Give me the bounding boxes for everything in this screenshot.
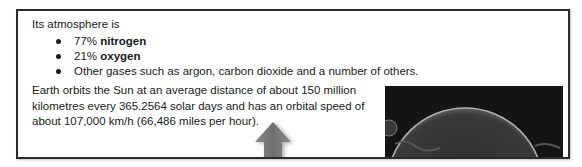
bullet-icon — [56, 39, 61, 44]
list-item-prefix: 77% — [74, 35, 100, 47]
paragraph-line: kilometres every 365.2564 solar days and… — [32, 99, 392, 115]
document-frame: Its atmosphere is 77% nitrogen 21% oxyge… — [16, 9, 570, 159]
list-item-bold: oxygen — [100, 50, 140, 62]
list-item-bold: nitrogen — [100, 35, 146, 47]
list-item: 21% oxygen — [54, 49, 419, 64]
bullet-icon — [56, 54, 61, 59]
paragraph-line: Earth orbits the Sun at an average dista… — [32, 83, 392, 99]
list-item: Other gases such as argon, carbon dioxid… — [54, 64, 419, 79]
atmosphere-list: 77% nitrogen 21% oxygen Other gases such… — [54, 34, 419, 79]
orbit-paragraph: Earth orbits the Sun at an average dista… — [32, 83, 392, 130]
list-item-prefix: Other gases such as argon, carbon dioxid… — [74, 65, 419, 77]
atmosphere-intro: Its atmosphere is — [32, 17, 120, 31]
list-item-prefix: 21% — [74, 50, 100, 62]
paragraph-line: about 107,000 km/h (66,486 miles per hou… — [32, 114, 392, 130]
list-item: 77% nitrogen — [54, 34, 419, 49]
bullet-icon — [56, 69, 61, 74]
planet-photo — [385, 86, 563, 158]
arrow-up-icon — [255, 122, 293, 158]
